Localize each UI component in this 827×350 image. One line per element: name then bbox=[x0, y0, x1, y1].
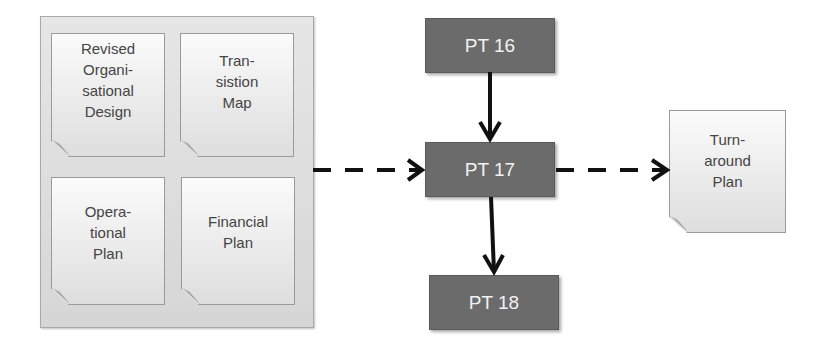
solid-arrow-pt17-to-pt18 bbox=[484, 197, 503, 272]
solid-arrow-pt16-to-pt17 bbox=[480, 72, 500, 139]
dashed-arrow-pt17-to-turnaround bbox=[556, 160, 667, 180]
dashed-arrow-inputs-to-pt17 bbox=[313, 160, 422, 180]
connectors bbox=[0, 0, 827, 350]
